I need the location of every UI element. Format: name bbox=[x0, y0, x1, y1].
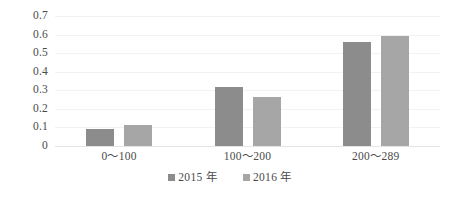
bar[interactable] bbox=[86, 129, 114, 146]
legend-item[interactable]: 2015 年 bbox=[168, 172, 217, 184]
legend-item-list: 2015 年2016 年 bbox=[168, 172, 291, 184]
bar[interactable] bbox=[253, 97, 281, 146]
y-axis-tick-label: 0.3 bbox=[0, 85, 48, 97]
bar-series-container bbox=[55, 16, 440, 146]
y-axis-tick-label: 0.6 bbox=[0, 29, 48, 41]
y-axis-tick-label: 0.5 bbox=[0, 47, 48, 59]
legend-swatch-icon bbox=[168, 174, 175, 181]
bar[interactable] bbox=[215, 87, 243, 146]
bar-group bbox=[343, 16, 409, 146]
legend-item[interactable]: 2016 年 bbox=[243, 172, 292, 184]
y-axis-tick-label: 0.4 bbox=[0, 66, 48, 78]
x-axis-category-label: 100～200 bbox=[183, 150, 311, 164]
legend-label: 2016 年 bbox=[253, 172, 292, 184]
bar[interactable] bbox=[381, 36, 409, 146]
bar-chart: 00.10.20.30.40.50.60.7 0～100100～200200～2… bbox=[0, 0, 460, 202]
chart-legend: 2015 年2016 年 bbox=[0, 172, 460, 184]
bar-group bbox=[86, 16, 152, 146]
y-axis-tick-label: 0.2 bbox=[0, 103, 48, 115]
y-axis: 00.10.20.30.40.50.60.7 bbox=[0, 0, 48, 162]
bar-group bbox=[215, 16, 281, 146]
bar[interactable] bbox=[343, 42, 371, 146]
y-axis-tick-label: 0.1 bbox=[0, 122, 48, 134]
y-axis-tick-label: 0 bbox=[0, 140, 48, 152]
x-axis-category-label: 0～100 bbox=[55, 150, 183, 164]
bar[interactable] bbox=[124, 125, 152, 146]
legend-swatch-icon bbox=[243, 174, 250, 181]
x-axis-category-labels: 0～100100～200200～289 bbox=[55, 150, 440, 170]
legend-label: 2015 年 bbox=[178, 172, 217, 184]
y-axis-tick-label: 0.7 bbox=[0, 10, 48, 22]
x-axis-category-label: 200～289 bbox=[312, 150, 440, 164]
gridline bbox=[55, 146, 440, 147]
